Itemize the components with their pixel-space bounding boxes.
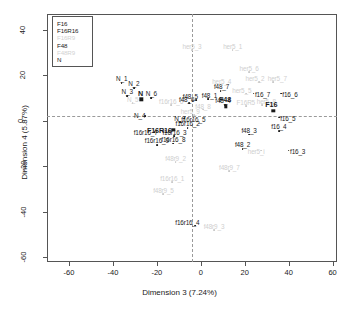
- data-point-label: f48r9_2: [165, 154, 186, 161]
- x-tick-label: 20: [241, 268, 249, 277]
- data-point-label: f48_3: [241, 126, 256, 133]
- data-point-label: f48r9_3: [204, 223, 225, 230]
- data-point-label: F16R5: [237, 99, 255, 106]
- data-point-label: f16_6: [282, 90, 297, 97]
- y-tick: [43, 30, 47, 31]
- data-point-label: her5_5: [232, 86, 251, 93]
- data-point-label: f48r9_5: [153, 186, 174, 193]
- data-point-label: her5_6: [240, 65, 259, 72]
- data-point-label: N_3: [122, 87, 133, 94]
- legend[interactable]: F16F16R16F16R9F48F48R9N: [52, 16, 93, 67]
- y-tick-label: 40: [18, 26, 27, 34]
- y-tick: [43, 75, 47, 76]
- legend-item-f48r9[interactable]: F48R9: [57, 49, 89, 56]
- data-point: [220, 90, 222, 92]
- x-tick: [113, 262, 114, 266]
- data-point-label: f16_4: [271, 123, 286, 130]
- data-point-label: her5_3: [183, 43, 202, 50]
- y-tick: [43, 166, 47, 167]
- group-centroid-label: F16: [265, 99, 277, 108]
- scatter-plot: -60-40-200204060 40200-20-40-60 N_1N_2N_…: [0, 0, 359, 330]
- x-tick-label: 40: [284, 268, 292, 277]
- y-tick: [43, 257, 47, 258]
- x-tick: [333, 262, 334, 266]
- legend-item-n[interactable]: N: [57, 56, 89, 63]
- group-centroid-label: N: [138, 89, 143, 98]
- data-point-label: f48r9_7: [219, 163, 240, 170]
- group-centroid-marker: [172, 128, 175, 131]
- x-tick: [289, 262, 290, 266]
- data-point-label: f16r16_4: [175, 218, 199, 225]
- data-point: [278, 130, 280, 132]
- y-tick-label: -60: [19, 252, 28, 263]
- data-point: [248, 134, 250, 136]
- data-point-label: f16_3: [290, 147, 305, 154]
- legend-item-f16r9[interactable]: F16R9: [57, 34, 89, 41]
- data-point-label: her5_1: [223, 43, 242, 50]
- legend-item-f16r16[interactable]: F16R16: [57, 27, 89, 34]
- x-tick: [69, 262, 70, 266]
- data-point-label: N_5: [127, 95, 138, 102]
- legend-item-f48[interactable]: F48: [57, 42, 89, 49]
- data-point-label: N_1: [116, 75, 127, 82]
- data-point-label: her5_4: [212, 77, 231, 84]
- data-point: [242, 148, 244, 150]
- data-point-label: her5_i: [248, 147, 265, 154]
- x-tick-label: -20: [151, 268, 162, 277]
- data-point-label: f16r16_1: [160, 175, 184, 182]
- data-point-label: f48_6: [179, 95, 194, 102]
- data-point-label: N_2: [128, 79, 139, 86]
- y-axis-title: Dimension 4 (5.87%): [20, 63, 29, 223]
- x-tick: [201, 262, 202, 266]
- data-point: [187, 127, 189, 129]
- data-point-label: f16r16_2: [176, 119, 200, 126]
- data-point-label: N_6: [146, 90, 157, 97]
- group-centroid-marker: [140, 98, 143, 101]
- data-point-label: her5_9: [181, 108, 200, 115]
- data-point-label: her5_7: [268, 75, 287, 82]
- group-centroid-label: F16R16: [147, 126, 172, 135]
- data-point: [121, 82, 123, 84]
- data-point-label: f16_5: [280, 114, 295, 121]
- x-tick-label: -60: [64, 268, 75, 277]
- group-centroid-marker: [224, 104, 227, 107]
- data-point: [133, 87, 135, 89]
- x-tick: [245, 262, 246, 266]
- x-tick-label: 0: [199, 268, 203, 277]
- data-point: [172, 143, 174, 145]
- data-point-label: N_4: [134, 112, 145, 119]
- data-point: [156, 144, 158, 146]
- x-tick-label: -40: [107, 268, 118, 277]
- group-centroid-label: F48: [219, 95, 231, 104]
- y-tick: [43, 212, 47, 213]
- data-point: [150, 97, 152, 99]
- x-tick: [157, 262, 158, 266]
- x-tick-label: 60: [328, 268, 336, 277]
- legend-item-f16[interactable]: F16: [57, 20, 89, 27]
- x-axis-title: Dimension 3 (7.24%): [0, 288, 359, 297]
- group-centroid-marker: [272, 109, 275, 112]
- data-point-label: her5_2: [246, 75, 265, 82]
- data-point-label: f16_7: [255, 90, 270, 97]
- y-tick: [43, 121, 47, 122]
